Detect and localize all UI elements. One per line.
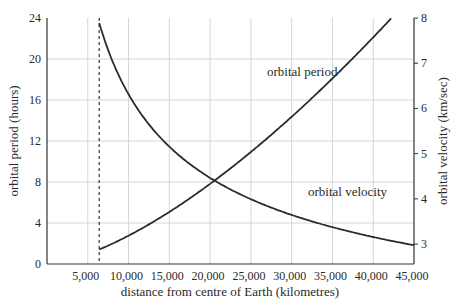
x-tick-label: 5,000 <box>72 269 99 283</box>
orbital-velocity-curve <box>99 23 414 245</box>
x-axis-label: distance from centre of Earth (kilometre… <box>121 284 339 299</box>
x-tick-label: 30,000 <box>273 269 306 283</box>
y-tick-label: 20 <box>29 52 41 66</box>
orbital-period-label: orbital period <box>267 64 338 79</box>
x-tick-label: 10,000 <box>110 269 143 283</box>
tick-labels: 5,00010,00015,00020,00025,00030,00035,00… <box>29 11 429 283</box>
x-tick-label: 35,000 <box>314 269 347 283</box>
x-tick-label: 40,000 <box>355 269 388 283</box>
y-tick-label: 4 <box>35 216 41 230</box>
y2-tick-label: 8 <box>421 11 427 25</box>
x-tick-label: 20,000 <box>192 269 225 283</box>
y2-tick-label: 5 <box>421 147 427 161</box>
orbital-velocity-label: orbital velocity <box>308 184 388 199</box>
y-axis-label: orbital period (hours) <box>6 85 21 196</box>
y2-axis-label: orbital velocity (km/sec) <box>435 77 450 205</box>
x-tick-label: 15,000 <box>151 269 184 283</box>
orbital-period-curve <box>99 18 391 249</box>
orbit-chart: 5,00010,00015,00020,00025,00030,00035,00… <box>0 0 452 308</box>
y2-tick-label: 6 <box>421 101 427 115</box>
y2-tick-label: 3 <box>421 237 427 251</box>
y-tick-label: 24 <box>29 11 41 25</box>
y-tick-label: 8 <box>35 175 41 189</box>
grid-lines <box>47 18 414 264</box>
y-tick-label: 16 <box>29 93 41 107</box>
y2-tick-label: 7 <box>421 56 427 70</box>
y-tick-label: 0 <box>35 257 41 271</box>
y-tick-label: 12 <box>29 134 41 148</box>
x-tick-label: 25,000 <box>232 269 265 283</box>
x-tick-label: 45,000 <box>396 269 429 283</box>
y2-tick-label: 4 <box>421 192 427 206</box>
